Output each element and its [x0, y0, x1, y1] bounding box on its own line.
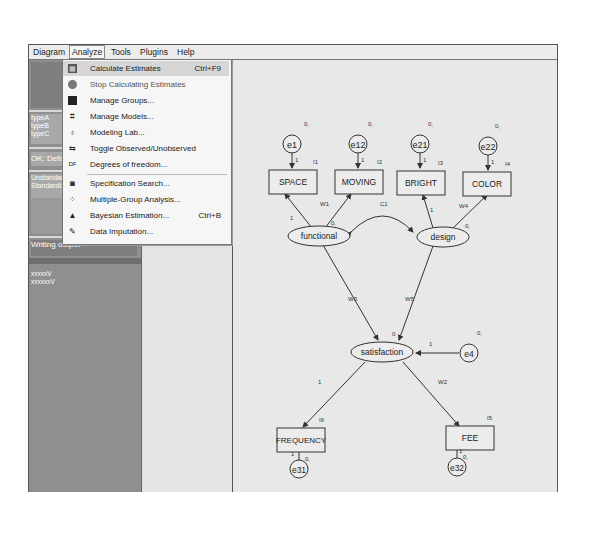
- df-icon: DF: [68, 160, 77, 169]
- binoculars-icon: ◙: [68, 179, 77, 188]
- svg-text:1: 1: [295, 157, 299, 163]
- svg-text:design: design: [430, 232, 455, 242]
- svg-text:0,: 0,: [463, 454, 468, 460]
- divider: [29, 258, 141, 264]
- svg-text:I1: I1: [313, 159, 319, 165]
- svg-text:functional: functional: [301, 231, 337, 241]
- menu-item-manage-models[interactable]: ⌗ Manage Models...: [63, 109, 229, 124]
- flask-icon: ♁: [68, 128, 77, 137]
- svg-text:0,: 0,: [477, 330, 482, 336]
- menu-item-modeling-lab[interactable]: ♁ Modeling Lab...: [63, 125, 229, 140]
- svg-text:W1: W1: [320, 201, 330, 207]
- observed-bright[interactable]: BRIGHT I3: [397, 160, 445, 195]
- menu-item-stop-calculating[interactable]: Stop Calculating Estimates: [63, 77, 229, 92]
- error-e22[interactable]: e22 0, 1: [479, 123, 500, 165]
- observed-color[interactable]: COLOR I4: [463, 161, 511, 196]
- error-e1[interactable]: e1 0, 1: [283, 121, 309, 163]
- svg-text:W2: W2: [438, 379, 448, 385]
- latent-design[interactable]: design: [417, 227, 469, 247]
- file-list: xxxxxV xxxxxxV: [31, 270, 137, 286]
- svg-text:W5: W5: [405, 296, 415, 302]
- menu-item-bayesian-estimation[interactable]: ▲ Bayesian Estimation... Ctrl+B: [63, 208, 229, 223]
- error-e12[interactable]: e12 0, 1: [349, 121, 373, 163]
- error-e4[interactable]: e4 0, 1: [429, 330, 482, 362]
- svg-text:0,: 0,: [331, 220, 336, 226]
- svg-text:I6: I6: [319, 417, 325, 423]
- calculator-icon: ▦: [68, 64, 77, 73]
- file-item[interactable]: xxxxxxV: [31, 278, 137, 286]
- svg-text:1: 1: [430, 207, 434, 213]
- svg-text:1: 1: [429, 341, 433, 347]
- svg-text:0: 0: [392, 331, 396, 337]
- menu-separator: [87, 174, 227, 175]
- observed-moving[interactable]: MOVING I2: [335, 159, 383, 194]
- svg-text:e22: e22: [480, 142, 495, 152]
- svg-text:W4: W4: [459, 203, 469, 209]
- svg-text:0,: 0,: [305, 456, 310, 462]
- menu-item-multiple-group-analysis[interactable]: ⁘ Multiple-Group Analysis...: [63, 192, 229, 207]
- svg-text:0,: 0,: [495, 123, 500, 129]
- error-e21[interactable]: e21 0, 1: [411, 121, 433, 163]
- svg-text:1: 1: [423, 157, 427, 163]
- svg-text:1: 1: [290, 215, 294, 221]
- svg-text:SPACE: SPACE: [279, 177, 308, 187]
- menu-tools[interactable]: Tools: [109, 46, 133, 58]
- svg-text:0,: 0,: [368, 121, 373, 127]
- svg-text:0,: 0,: [304, 121, 309, 127]
- error-e31[interactable]: e31 0, 1: [290, 451, 310, 478]
- groups-icon: [68, 96, 77, 105]
- diagram-canvas[interactable]: e1 0, 1 e12 0, 1 e21 0, 1 e22 0, 1: [233, 60, 557, 492]
- observed-frequency[interactable]: FREQUENCY I6: [276, 417, 327, 452]
- file-item[interactable]: xxxxxV: [31, 270, 137, 278]
- svg-text:W3: W3: [348, 296, 358, 302]
- svg-text:1: 1: [318, 379, 322, 385]
- observed-fee[interactable]: FEE I5: [446, 415, 494, 450]
- menu-item-degrees-of-freedom[interactable]: DF Degrees of freedom...: [63, 157, 229, 172]
- menu-item-specification-search[interactable]: ◙ Specification Search...: [63, 176, 229, 191]
- menu-item-manage-groups[interactable]: Manage Groups...: [63, 93, 229, 108]
- svg-text:1: 1: [361, 157, 365, 163]
- svg-text:I2: I2: [377, 159, 383, 165]
- menu-bar: Diagram Analyze Tools Plugins Help: [29, 45, 557, 60]
- svg-text:FEE: FEE: [462, 433, 479, 443]
- svg-text:0,: 0,: [428, 121, 433, 127]
- menu-diagram[interactable]: Diagram: [31, 46, 67, 58]
- svg-text:e21: e21: [412, 140, 427, 150]
- menu-item-toggle-observed[interactable]: ⇆ Toggle Observed/Unobserved: [63, 141, 229, 156]
- latent-functional[interactable]: functional: [288, 226, 350, 246]
- svg-text:e32: e32: [450, 463, 464, 473]
- observed-space[interactable]: SPACE I1: [269, 159, 319, 194]
- stop-icon: [68, 80, 77, 89]
- analyze-menu-dropdown: ▦ Calculate Estimates Ctrl+F9 Stop Calcu…: [62, 59, 232, 245]
- svg-text:I5: I5: [487, 415, 493, 421]
- menu-plugins[interactable]: Plugins: [138, 46, 170, 58]
- bayes-icon: ▲: [68, 211, 77, 220]
- menu-item-data-imputation[interactable]: ✎ Data Imputation...: [63, 224, 229, 239]
- multigroup-icon: ⁘: [68, 195, 77, 204]
- svg-text:FREQUENCY: FREQUENCY: [276, 436, 327, 445]
- menu-help[interactable]: Help: [175, 46, 196, 58]
- svg-text:COLOR: COLOR: [472, 179, 502, 189]
- svg-text:1: 1: [491, 159, 495, 165]
- error-e32[interactable]: e32 0, 1: [448, 448, 468, 476]
- svg-text:I4: I4: [505, 161, 511, 167]
- models-icon: ⌗: [68, 112, 77, 121]
- menu-analyze[interactable]: Analyze: [69, 45, 105, 59]
- svg-text:e1: e1: [287, 140, 297, 150]
- svg-text:e12: e12: [350, 140, 365, 150]
- svg-text:0,: 0,: [465, 223, 470, 229]
- svg-text:C1: C1: [380, 201, 388, 207]
- svg-text:MOVING: MOVING: [342, 177, 376, 187]
- path-diagram: e1 0, 1 e12 0, 1 e21 0, 1 e22 0, 1: [233, 60, 557, 492]
- imputation-icon: ✎: [68, 227, 77, 236]
- svg-text:I3: I3: [438, 160, 444, 166]
- svg-text:BRIGHT: BRIGHT: [405, 178, 437, 188]
- menu-item-calculate-estimates[interactable]: ▦ Calculate Estimates Ctrl+F9: [63, 61, 229, 76]
- toggle-icon: ⇆: [68, 144, 77, 153]
- svg-text:satisfaction: satisfaction: [361, 347, 404, 357]
- svg-text:e4: e4: [464, 349, 474, 359]
- latent-satisfaction[interactable]: satisfaction: [351, 342, 413, 362]
- svg-text:e31: e31: [292, 465, 306, 475]
